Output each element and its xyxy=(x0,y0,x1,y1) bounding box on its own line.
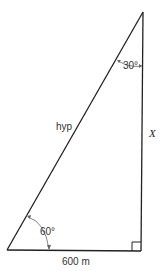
vertical-side-label: X xyxy=(148,127,157,139)
vertical-side-line xyxy=(141,12,143,251)
right-angle-marker xyxy=(132,242,141,251)
hypotenuse-label: hyp xyxy=(56,121,73,132)
hypotenuse-line xyxy=(7,12,143,250)
arrow-head-icon xyxy=(139,64,142,68)
triangle-diagram: 30° hyp X 60° 600 m xyxy=(0,0,168,271)
base-label: 600 m xyxy=(62,256,90,267)
arrow-head-icon xyxy=(27,215,31,219)
bottom-angle-label: 60° xyxy=(40,226,55,237)
top-angle-label: 30° xyxy=(123,60,138,71)
base-line xyxy=(7,250,141,251)
arrow-head-icon xyxy=(47,245,51,250)
